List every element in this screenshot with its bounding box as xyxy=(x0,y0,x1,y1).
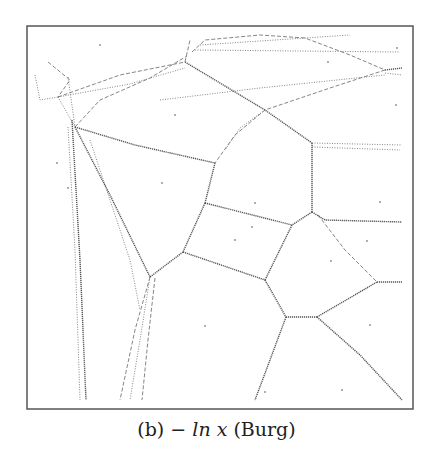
voronoi-edge xyxy=(385,68,402,70)
voronoi-figure xyxy=(0,0,433,467)
voronoi-edge xyxy=(312,143,402,145)
voronoi-site xyxy=(395,104,397,106)
voronoi-edge xyxy=(195,50,400,52)
voronoi-edge xyxy=(75,56,187,127)
voronoi-edge xyxy=(90,140,140,310)
voronoi-site xyxy=(204,325,206,327)
voronoi-site xyxy=(341,389,343,391)
voronoi-edge xyxy=(150,252,183,277)
voronoi-edge xyxy=(72,120,86,400)
voronoi-edge xyxy=(318,215,377,282)
voronoi-edge xyxy=(200,35,350,45)
voronoi-edge xyxy=(292,212,312,225)
voronoi-site xyxy=(327,61,329,63)
voronoi-site xyxy=(161,182,163,184)
voronoi-edge xyxy=(385,73,402,75)
voronoi-edge xyxy=(225,110,265,150)
caption-name: (Burg) xyxy=(233,418,295,440)
voronoi-edge xyxy=(160,75,385,100)
voronoi-edge xyxy=(35,75,58,100)
voronoi-edge xyxy=(58,68,185,97)
voronoi-edge xyxy=(317,282,377,317)
voronoi-site xyxy=(56,162,58,164)
voronoi-edge xyxy=(142,278,155,400)
voronoi-edge xyxy=(185,62,312,143)
voronoi-edge xyxy=(68,127,80,400)
voronoi-edge xyxy=(68,77,75,127)
voronoi-edge xyxy=(185,40,190,62)
voronoi-edge xyxy=(120,277,150,400)
voronoi-site xyxy=(174,114,176,116)
voronoi-site xyxy=(99,44,101,46)
voronoi-edge xyxy=(255,317,286,400)
voronoi-edge xyxy=(205,163,215,203)
voronoi-edge xyxy=(183,252,265,280)
voronoi-site xyxy=(330,260,332,262)
caption-math: − ln x xyxy=(170,418,227,440)
voronoi-edge xyxy=(183,203,205,252)
voronoi-site xyxy=(251,226,253,228)
voronoi-site xyxy=(369,324,371,326)
figure-caption: (b) − ln x (Burg) xyxy=(0,418,433,440)
voronoi-edge xyxy=(58,62,185,97)
voronoi-edge xyxy=(205,203,292,225)
voronoi-site xyxy=(234,239,236,241)
voronoi-edge xyxy=(75,127,215,163)
voronoi-edge xyxy=(48,62,70,97)
voronoi-edge xyxy=(265,280,286,317)
voronoi-site xyxy=(379,201,381,203)
voronoi-edge xyxy=(265,225,292,280)
voronoi-edge xyxy=(312,147,400,150)
voronoi-edges xyxy=(35,35,402,400)
voronoi-site xyxy=(264,391,266,393)
voronoi-site xyxy=(366,240,368,242)
voronoi-edge xyxy=(317,317,402,400)
voronoi-site xyxy=(396,47,398,49)
voronoi-site xyxy=(67,187,69,189)
voronoi-edge xyxy=(192,35,385,70)
voronoi-edge xyxy=(312,212,402,222)
caption-label: (b) xyxy=(137,418,164,440)
voronoi-site xyxy=(254,202,256,204)
voronoi-edge xyxy=(75,127,150,277)
